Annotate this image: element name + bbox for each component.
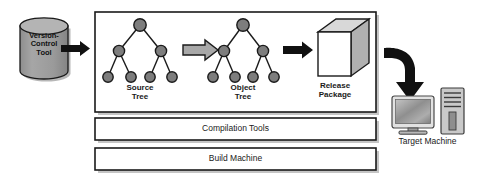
- target-machine-monitor-icon: [392, 96, 434, 134]
- diagram-graphics: [0, 0, 477, 181]
- release-package-cube: [318, 19, 369, 76]
- build-machine-bar-shape: [95, 148, 379, 173]
- target-machine-tower-icon: [441, 88, 464, 134]
- compilation-tools-bar-shape: [95, 118, 379, 143]
- diagram-canvas: Version- Control Tool Source Tree Object…: [0, 0, 477, 181]
- arrow-release-to-target-icon: [384, 48, 424, 101]
